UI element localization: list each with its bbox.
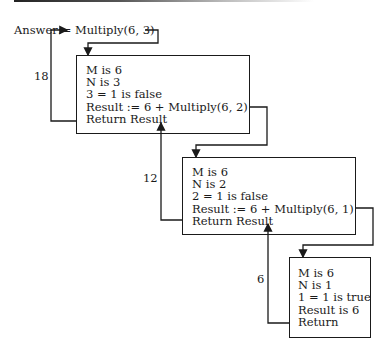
return-value-2: 12 (143, 172, 158, 184)
return-value-3: 6 (257, 273, 264, 285)
frame-line: Result is 6 (298, 304, 371, 316)
recursion-diagram: Answer:= Multiply(6, 3) M is 6 N is 3 3 … (0, 0, 386, 352)
return-arrow-2 (161, 123, 182, 220)
frame-line: Result := 6 + Multiply(6, 2) (86, 101, 248, 113)
frame-line: 1 = 1 is true (298, 291, 371, 303)
return-value-1: 18 (34, 70, 49, 82)
frame-line: Result := 6 + Multiply(6, 1) (192, 203, 354, 215)
return-arrow-3 (268, 224, 289, 323)
frame-3-text: M is 6 N is 1 1 = 1 is true Result is 6 … (298, 267, 371, 328)
frame-2-text: M is 6 N is 2 2 = 1 is false Result := 6… (192, 166, 354, 227)
frame-line: 3 = 1 is false (86, 88, 248, 100)
frame-line: Return Result (86, 113, 248, 125)
frame-line: Return Result (192, 215, 354, 227)
frame-1-text: M is 6 N is 3 3 = 1 is false Result := 6… (86, 64, 248, 125)
frame-line: Return (298, 316, 371, 328)
frame-line: 2 = 1 is false (192, 190, 354, 202)
return-arrow-1 (51, 30, 76, 121)
call-label: Answer:= Multiply(6, 3) (14, 24, 155, 36)
